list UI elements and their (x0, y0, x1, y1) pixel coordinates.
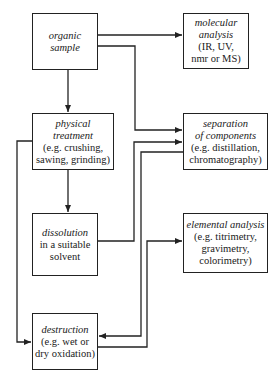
node-title: separation (203, 118, 248, 130)
node-detail: (e.g. crushing, (43, 142, 103, 154)
node-separation-of-components: separation of components (e.g. distillat… (183, 113, 268, 170)
node-physical-treatment: physical treatment (e.g. crushing, sawin… (32, 113, 114, 170)
node-title: sample (50, 42, 80, 54)
node-detail: colorimetry) (199, 255, 251, 267)
node-destruction: destruction (e.g. wet or dry oxidation) (32, 313, 98, 370)
node-detail: solvent (50, 251, 80, 263)
node-title: molecular (195, 17, 238, 29)
node-detail: (e.g. titrimetry, (194, 231, 257, 243)
node-detail: nmr or MS) (191, 53, 241, 65)
node-title: analysis (199, 29, 233, 41)
node-dissolution: dissolution in a suitable solvent (32, 213, 98, 276)
node-molecular-analysis: molecular analysis (IR, UV, nmr or MS) (183, 13, 249, 69)
node-title: destruction (41, 324, 88, 336)
node-detail: in a suitable (40, 239, 91, 251)
node-detail: (IR, UV, (198, 41, 234, 53)
node-detail: chromatography) (189, 154, 261, 166)
node-detail: (e.g. wet or (41, 336, 89, 348)
node-title: of components (195, 130, 256, 142)
node-elemental-analysis: elemental analysis (e.g. titrimetry, gra… (183, 213, 268, 273)
node-detail: dry oxidation) (35, 348, 95, 360)
edge-physical-to-destruction (17, 141, 32, 342)
node-title: treatment (53, 130, 93, 142)
node-title: dissolution (42, 227, 88, 239)
node-detail: (e.g. distillation, (191, 142, 260, 154)
node-title: elemental analysis (187, 219, 265, 231)
node-title: physical (56, 118, 91, 130)
edge-separation-to-destruction (99, 152, 183, 336)
node-detail: gravimetry, (201, 243, 249, 255)
node-title: organic (49, 30, 81, 42)
node-organic-sample: organic sample (32, 13, 98, 70)
edge-destruction-to-elemental (98, 241, 182, 347)
node-detail: sawing, grinding) (36, 154, 110, 166)
